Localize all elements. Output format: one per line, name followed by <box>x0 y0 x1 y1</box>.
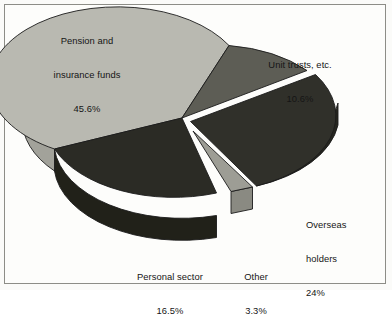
slice-value-personal-sector: 16.5% <box>108 305 232 316</box>
slice-label-overseas-holders: Overseas holders 24% <box>306 196 386 318</box>
slice-label-other-line1: Other <box>228 271 284 282</box>
slice-value-unit-trusts: 10.6% <box>238 93 362 104</box>
slice-value-other: 3.3% <box>228 305 284 316</box>
slice-label-pension-funds-line1: Pension and <box>26 35 148 46</box>
slice-label-pension-funds-line2: insurance funds <box>26 69 148 80</box>
slice-label-overseas-holders-line2: holders <box>306 253 386 264</box>
slice-label-unit-trusts: Unit trusts, etc. 10.6% <box>238 36 362 127</box>
slice-label-personal-sector-line1: Personal sector <box>108 271 232 282</box>
slice-value-overseas-holders: 24% <box>306 287 386 298</box>
slice-label-other: Other 3.3% <box>228 248 284 318</box>
slice-value-pension-funds: 45.6% <box>26 103 148 114</box>
slice-label-overseas-holders-line1: Overseas <box>306 219 386 230</box>
slice-label-pension-funds: Pension and insurance funds 45.6% <box>26 12 148 137</box>
slice-label-personal-sector: Personal sector 16.5% <box>108 248 232 318</box>
slice-label-unit-trusts-line1: Unit trusts, etc. <box>238 59 362 70</box>
